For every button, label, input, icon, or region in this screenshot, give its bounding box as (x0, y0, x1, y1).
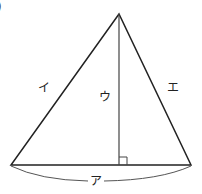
label-left-side: イ (38, 82, 50, 94)
label-altitude: ウ (99, 91, 111, 103)
label-right-side: エ (167, 82, 179, 94)
label-base: ア (90, 175, 102, 187)
right-angle-marker (119, 157, 127, 165)
